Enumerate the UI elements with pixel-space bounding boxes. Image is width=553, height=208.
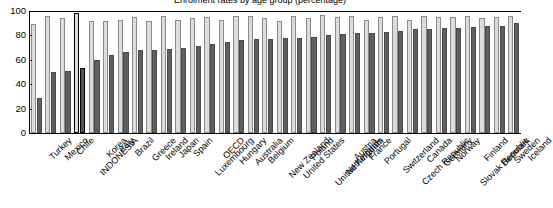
bar-group (101, 11, 115, 133)
bar-group (405, 11, 419, 133)
bar-group (116, 11, 130, 133)
bar-light (233, 16, 238, 133)
bar-dark (413, 29, 418, 133)
bar-group (232, 11, 246, 133)
bars-layer (29, 11, 521, 133)
bar-light (103, 21, 108, 133)
bar-light (306, 18, 311, 133)
y-axis: 020406080100 (0, 0, 26, 208)
bar-light (277, 21, 282, 133)
bar-dark (471, 27, 476, 133)
bar-dark (254, 39, 259, 133)
y-tick-label: 20 (15, 104, 26, 114)
bar-light (364, 20, 369, 133)
bar-light (392, 16, 397, 133)
bar-dark (51, 72, 56, 133)
bar-dark (123, 52, 128, 133)
bar-light (60, 18, 65, 133)
bar-group (130, 11, 144, 133)
bar-light (335, 17, 340, 133)
bar-group (58, 11, 72, 133)
bar-group (275, 11, 289, 133)
y-tick-label: 100 (10, 6, 26, 16)
y-tick-label: 80 (15, 30, 26, 40)
bar-light (320, 15, 325, 133)
bar-light (421, 16, 426, 133)
bar-light (204, 17, 209, 133)
bar-group (478, 11, 492, 133)
bar-dark (109, 55, 114, 133)
bar-light (146, 21, 151, 133)
bar-dark (239, 40, 244, 133)
y-tick-label: 0 (21, 128, 26, 138)
y-tick-label: 40 (15, 79, 26, 89)
bar-group (492, 11, 506, 133)
bar-light (175, 20, 180, 133)
bar-dark (500, 26, 505, 133)
bar-light (450, 17, 455, 133)
bar-dark (225, 42, 230, 134)
chart-title: Enrolment rates by age group (percentage… (40, 0, 480, 5)
bar-light (262, 18, 267, 133)
bar-light (219, 20, 224, 133)
y-tick-mark (29, 84, 32, 85)
bar-dark (210, 44, 215, 133)
bar-group (188, 11, 202, 133)
bar-dark (138, 50, 143, 133)
bar-group (507, 11, 521, 133)
bar-group (174, 11, 188, 133)
bar-light (161, 16, 166, 133)
bar-light (45, 16, 50, 133)
bar-light (436, 17, 441, 133)
bar-dark (442, 28, 447, 133)
bar-group (449, 11, 463, 133)
bar-group (145, 11, 159, 133)
bar-dark (283, 38, 288, 133)
bar-group (333, 11, 347, 133)
bar-dark (340, 34, 345, 133)
bar-group (29, 11, 43, 133)
bar-dark (65, 71, 70, 133)
bar-dark (94, 60, 99, 133)
bar-light (248, 16, 253, 133)
bar-dark (384, 32, 389, 133)
bar-group (261, 11, 275, 133)
bar-light (479, 18, 484, 133)
y-tick-label: 60 (15, 55, 26, 65)
bar-group (391, 11, 405, 133)
bar-dark (167, 49, 172, 133)
bar-dark (80, 68, 85, 133)
bar-light (132, 17, 137, 133)
bar-light (89, 21, 94, 133)
bar-dark (398, 31, 403, 133)
bar-light (74, 13, 79, 133)
bar-dark (355, 33, 360, 133)
bar-dark (37, 98, 42, 133)
bar-group (304, 11, 318, 133)
bar-group (159, 11, 173, 133)
bar-dark (181, 48, 186, 133)
x-axis: TurkeyMexicoChileINDONESIAKoreaItalyBraz… (29, 133, 521, 208)
bar-dark (485, 26, 490, 133)
bar-dark (152, 50, 157, 133)
bar-dark (311, 37, 316, 133)
bar-group (376, 11, 390, 133)
bar-light (190, 18, 195, 133)
bar-light (378, 17, 383, 133)
bar-light (494, 17, 499, 133)
bar-group (420, 11, 434, 133)
bar-light (291, 16, 296, 133)
y-tick-mark (29, 60, 32, 61)
bar-group (246, 11, 260, 133)
bar-group (289, 11, 303, 133)
bar-dark (297, 38, 302, 133)
bar-dark (369, 33, 374, 133)
bar-light (349, 16, 354, 133)
bar-group (362, 11, 376, 133)
bar-dark (456, 28, 461, 133)
y-tick-mark (29, 35, 32, 36)
bar-dark (514, 23, 519, 133)
bar-dark (196, 46, 201, 133)
bar-group (72, 11, 86, 133)
